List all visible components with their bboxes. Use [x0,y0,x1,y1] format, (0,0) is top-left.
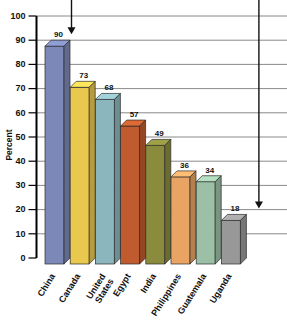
y-axis-tick-label: 70 [15,83,25,93]
bar-china [45,40,70,264]
bar-front-face [196,182,215,264]
bar-side-face [114,93,120,264]
bar-value-label: 36 [180,161,189,170]
bar-value-label: 18 [230,204,239,213]
bar-front-face [70,87,89,264]
bar-india [146,139,171,264]
bar-front-face [121,126,140,264]
bar-side-face [165,139,171,264]
y-axis-tick-label: 0 [20,253,25,263]
y-axis-tick-label: 50 [15,132,25,142]
bar-value-label: 68 [104,83,113,92]
bar-value-label: 90 [54,30,63,39]
y-axis-tick-label: 100 [10,11,25,21]
bar-chart: 0102030405060708090100 9073685749363418 … [0,0,287,322]
bar-guatemala [196,176,221,264]
bar-value-label: 49 [155,129,164,138]
bar-egypt [121,120,146,264]
bar-united-states [95,93,120,264]
bar-side-face [240,214,246,264]
bar-side-face [190,171,196,264]
y-axis-tick-label: 10 [15,229,25,239]
y-axis-tick-label: 30 [15,180,25,190]
bar-side-face [215,176,221,264]
bar-philippines [171,171,196,264]
bar-front-face [95,99,114,264]
bar-value-label: 57 [130,110,139,119]
bar-front-face [221,220,240,264]
y-axis-tick-label: 60 [15,108,25,118]
bar-side-face [140,120,146,264]
bar-front-face [171,177,190,264]
bar-side-face [64,40,70,264]
y-axis-tick-label: 80 [15,59,25,69]
chart-canvas: 0102030405060708090100 9073685749363418 … [0,0,287,322]
bar-uganda [221,214,246,264]
bar-value-label: 73 [79,71,88,80]
y-axis-tick-label: 90 [15,35,25,45]
bar-side-face [89,81,95,264]
y-axis-tick-label: 20 [15,204,25,214]
y-axis-tick-label: 40 [15,156,25,166]
bar-canada [70,81,95,264]
bar-front-face [45,46,64,264]
y-axis-title: Percent [4,129,14,160]
bar-value-label: 34 [205,166,214,175]
bar-front-face [146,145,165,264]
